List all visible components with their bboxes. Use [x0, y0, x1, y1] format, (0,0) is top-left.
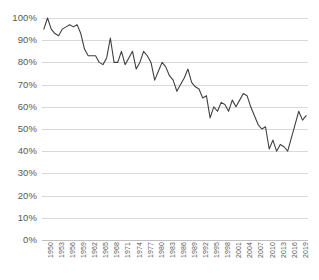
y-tick-label: 80% — [18, 57, 37, 67]
x-tick-label: 2007 — [257, 242, 264, 258]
x-tick-label: 1980 — [158, 242, 165, 258]
x-tick-label: 2019 — [302, 242, 309, 258]
y-tick-label: 30% — [18, 168, 37, 178]
x-tick-label: 1962 — [91, 242, 98, 258]
x-tick-label: 1995 — [213, 242, 220, 258]
x-tick-label: 1983 — [169, 242, 176, 258]
y-tick-label: 10% — [18, 213, 37, 223]
x-tick-label: 1971 — [124, 242, 131, 258]
x-tick-label: 1989 — [191, 242, 198, 258]
y-axis: 100%90%80%70%60%50%40%30%20%10%0% — [0, 0, 40, 280]
x-axis-line — [42, 240, 308, 241]
x-tick-label: 1974 — [136, 242, 143, 258]
x-tick-label: 2016 — [291, 242, 298, 258]
x-tick-label: 1950 — [47, 242, 54, 258]
y-tick-label: 90% — [18, 35, 37, 45]
x-axis: 1950195319561959196219651968197119741977… — [42, 242, 308, 280]
x-tick-label: 1959 — [80, 242, 87, 258]
x-tick-label: 2010 — [269, 242, 276, 258]
x-tick-label: 1986 — [180, 242, 187, 258]
plot-area — [42, 18, 308, 240]
y-tick-label: 70% — [18, 80, 37, 90]
y-tick-label: 40% — [18, 146, 37, 156]
x-tick-label: 1992 — [202, 242, 209, 258]
x-tick-label: 2001 — [235, 242, 242, 258]
y-tick-label: 60% — [18, 102, 37, 112]
line-chart: 100%90%80%70%60%50%40%30%20%10%0% 195019… — [0, 0, 319, 280]
x-tick-label: 2013 — [280, 242, 287, 258]
x-tick-label: 1953 — [58, 242, 65, 258]
x-tick-label: 1965 — [102, 242, 109, 258]
series-line — [42, 18, 308, 240]
x-tick-label: 1977 — [147, 242, 154, 258]
x-tick-label: 2004 — [246, 242, 253, 258]
y-tick-label: 0% — [23, 235, 37, 245]
x-tick-label: 1998 — [224, 242, 231, 258]
x-tick-label: 1956 — [69, 242, 76, 258]
series-polyline — [44, 18, 306, 151]
x-tick-label: 1968 — [113, 242, 120, 258]
y-tick-label: 50% — [18, 124, 37, 134]
y-tick-label: 20% — [18, 191, 37, 201]
y-tick-label: 100% — [12, 13, 37, 23]
